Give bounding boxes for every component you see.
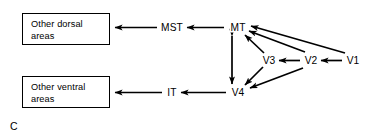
box-other-ventral-areas: Other ventral areas (22, 76, 110, 108)
edge-v3-to-mt (245, 35, 264, 53)
node-label-mt: MT (230, 22, 247, 33)
node-label-v3: V3 (262, 55, 277, 66)
box-other-ventral-areas-line2: areas (31, 94, 109, 106)
node-label-it: IT (166, 87, 177, 98)
box-other-dorsal-areas-line2: areas (31, 31, 109, 43)
node-label-v1: V1 (346, 55, 361, 66)
visual-cortex-hierarchy-diagram: Other dorsal areas Other ventral areas M… (0, 0, 373, 140)
node-label-v4: V4 (231, 87, 246, 98)
edge-v3-to-v4 (245, 67, 263, 85)
box-other-ventral-areas-line1: Other ventral (31, 82, 109, 94)
box-other-dorsal-areas: Other dorsal areas (22, 13, 110, 45)
panel-letter: C (10, 120, 18, 132)
node-label-mst: MST (160, 22, 184, 33)
node-label-v2: V2 (304, 55, 319, 66)
box-other-dorsal-areas-line1: Other dorsal (31, 19, 109, 31)
